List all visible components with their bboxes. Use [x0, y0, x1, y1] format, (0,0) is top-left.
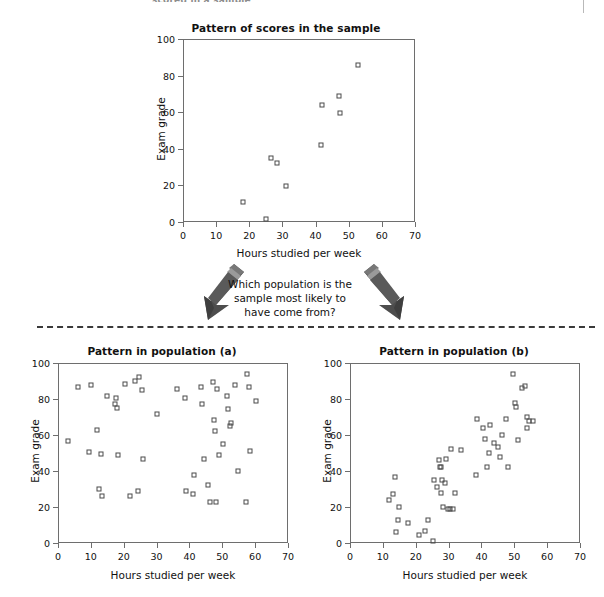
data-point — [319, 103, 324, 108]
x-tick — [189, 543, 190, 548]
data-point — [453, 490, 458, 495]
plot-area-population-a — [58, 363, 288, 543]
data-point — [100, 493, 105, 498]
data-point — [356, 62, 361, 67]
chart-title-population-a: Pattern in population (a) — [32, 345, 292, 357]
data-point — [523, 384, 528, 389]
data-point — [269, 155, 274, 160]
cropped-header-text: scored in a sample — [152, 0, 251, 2]
y-tick-label: 80 — [16, 394, 50, 405]
x-tick — [91, 543, 92, 548]
data-point — [444, 456, 449, 461]
x-tick-label: 10 — [85, 551, 97, 562]
x-tick — [157, 543, 158, 548]
y-tick-label: 0 — [141, 217, 175, 228]
data-point — [99, 451, 104, 456]
x-axis-title-population-b: Hours studied per week — [350, 569, 580, 581]
x-tick-label: 40 — [183, 551, 195, 562]
data-point — [473, 472, 478, 477]
question-line-2: sample most likely to — [216, 291, 364, 305]
x-tick-label: 0 — [180, 230, 186, 241]
data-point — [141, 456, 146, 461]
data-point — [122, 382, 127, 387]
x-tick-label: 30 — [276, 230, 288, 241]
x-tick-label: 60 — [376, 230, 388, 241]
data-point — [211, 418, 216, 423]
y-tick — [53, 399, 58, 400]
data-point — [515, 438, 520, 443]
y-tick — [53, 471, 58, 472]
data-point — [184, 489, 189, 494]
y-tick-label: 20 — [308, 502, 342, 513]
x-tick — [580, 543, 581, 548]
data-point — [136, 375, 141, 380]
x-tick — [415, 222, 416, 227]
question-line-1: Which population is the — [216, 277, 364, 291]
data-point — [97, 487, 102, 492]
y-tick-label: 80 — [141, 70, 175, 81]
data-point — [205, 483, 210, 488]
x-tick — [416, 543, 417, 548]
x-tick-label: 70 — [282, 551, 294, 562]
y-tick — [345, 435, 350, 436]
y-tick-label: 80 — [308, 394, 342, 405]
x-tick-label: 20 — [410, 551, 422, 562]
data-point — [422, 529, 427, 534]
data-point — [435, 484, 440, 489]
data-point — [76, 384, 81, 389]
x-tick-label: 50 — [508, 551, 520, 562]
x-tick — [124, 543, 125, 548]
y-tick-label: 60 — [141, 107, 175, 118]
y-tick — [53, 507, 58, 508]
data-point — [191, 492, 196, 497]
x-tick — [547, 543, 548, 548]
data-point — [135, 488, 140, 493]
data-point — [216, 453, 221, 458]
y-tick-label: 40 — [141, 143, 175, 154]
y-tick-label: 40 — [308, 466, 342, 477]
y-tick-label: 100 — [16, 358, 50, 369]
x-tick-label: 40 — [310, 230, 322, 241]
y-tick — [53, 435, 58, 436]
y-tick-label: 60 — [308, 430, 342, 441]
chart-sample: Pattern of scores in the sample Hours st… — [150, 22, 422, 270]
y-tick — [345, 507, 350, 508]
y-tick — [345, 363, 350, 364]
data-point — [140, 387, 145, 392]
x-tick — [255, 543, 256, 548]
data-point — [531, 418, 536, 423]
data-point — [481, 426, 486, 431]
x-tick — [288, 543, 289, 548]
y-tick — [178, 76, 183, 77]
y-tick-label: 20 — [141, 180, 175, 191]
x-tick — [282, 222, 283, 227]
data-point — [510, 372, 515, 377]
y-tick — [178, 39, 183, 40]
x-tick — [216, 222, 217, 227]
x-tick — [316, 222, 317, 227]
data-point — [88, 382, 93, 387]
data-point — [245, 372, 250, 377]
data-point — [228, 420, 233, 425]
x-tick — [183, 222, 184, 227]
data-point — [115, 406, 120, 411]
data-point — [241, 199, 246, 204]
data-point — [318, 143, 323, 148]
y-tick — [345, 471, 350, 472]
data-point — [395, 517, 400, 522]
data-point — [198, 385, 203, 390]
data-point — [337, 94, 342, 99]
data-point — [183, 395, 188, 400]
data-point — [393, 474, 398, 479]
data-point — [225, 393, 230, 398]
x-axis-title-sample: Hours studied per week — [183, 247, 415, 259]
data-point — [215, 387, 220, 392]
x-tick-label: 10 — [377, 551, 389, 562]
data-point — [86, 449, 91, 454]
x-tick-label: 40 — [475, 551, 487, 562]
y-tick — [178, 112, 183, 113]
data-point — [221, 442, 226, 447]
data-point — [226, 406, 231, 411]
x-tick — [222, 543, 223, 548]
data-point — [127, 494, 132, 499]
